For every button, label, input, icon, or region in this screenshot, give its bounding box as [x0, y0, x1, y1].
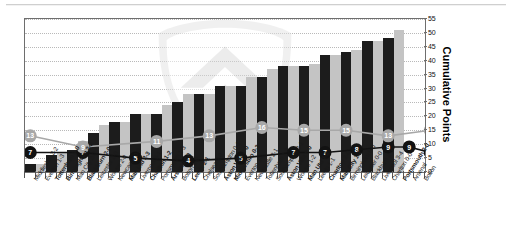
y-tick-label: 45	[428, 42, 435, 49]
marker-value: 13	[26, 132, 34, 139]
y-tick-label: 5	[428, 154, 432, 161]
top-divider-shadow	[6, 5, 506, 6]
y-axis-title: Cumulative Points	[436, 18, 458, 171]
line-marker: 13	[25, 129, 37, 142]
y-tick-label: 20	[428, 112, 435, 119]
y-tick-label: 25	[428, 98, 435, 105]
y-tick-label: 30	[428, 84, 435, 91]
marker-value: 13	[205, 132, 213, 139]
y-tick-label: 15	[428, 126, 435, 133]
y-tick-mark	[424, 129, 427, 130]
y-tick-label: 50	[428, 28, 435, 35]
line-marker: 7	[25, 146, 37, 159]
y-tick-mark	[424, 115, 427, 116]
marker-value: 9	[407, 144, 411, 151]
y-tick-mark	[424, 18, 427, 19]
marker-value: 11	[153, 138, 161, 145]
marker-value: 13	[384, 132, 392, 139]
line-marker: 15	[340, 124, 353, 137]
y-tick-mark	[424, 74, 427, 75]
marker-value: 15	[300, 127, 308, 134]
y-tick-mark	[424, 32, 427, 33]
x-tick-mark	[24, 171, 25, 178]
x-axis-labels: Middlesbro 3-2Everton 1-3Tottenham 3-0Bi…	[24, 178, 424, 248]
y-tick-mark	[424, 46, 427, 47]
y-tick-label: 55	[428, 15, 435, 22]
y-tick-mark	[424, 101, 427, 102]
line-marker: 15	[297, 124, 310, 137]
line-marker: 11	[150, 135, 163, 148]
y-tick-label: 35	[428, 70, 435, 77]
line-marker: 16	[255, 121, 268, 134]
y-tick-mark	[424, 157, 427, 158]
line-marker: 13	[203, 129, 216, 142]
y-tick-mark	[424, 60, 427, 61]
marker-value: 15	[342, 127, 350, 134]
y-tick-label: 40	[428, 56, 435, 63]
line-marker: 13	[382, 129, 395, 142]
y-tick-mark	[424, 88, 427, 89]
marker-value: 16	[258, 124, 266, 131]
marker-value: 7	[28, 149, 32, 156]
chart-screenshot: 7754577899713911131615151315 05101520253…	[0, 0, 513, 248]
